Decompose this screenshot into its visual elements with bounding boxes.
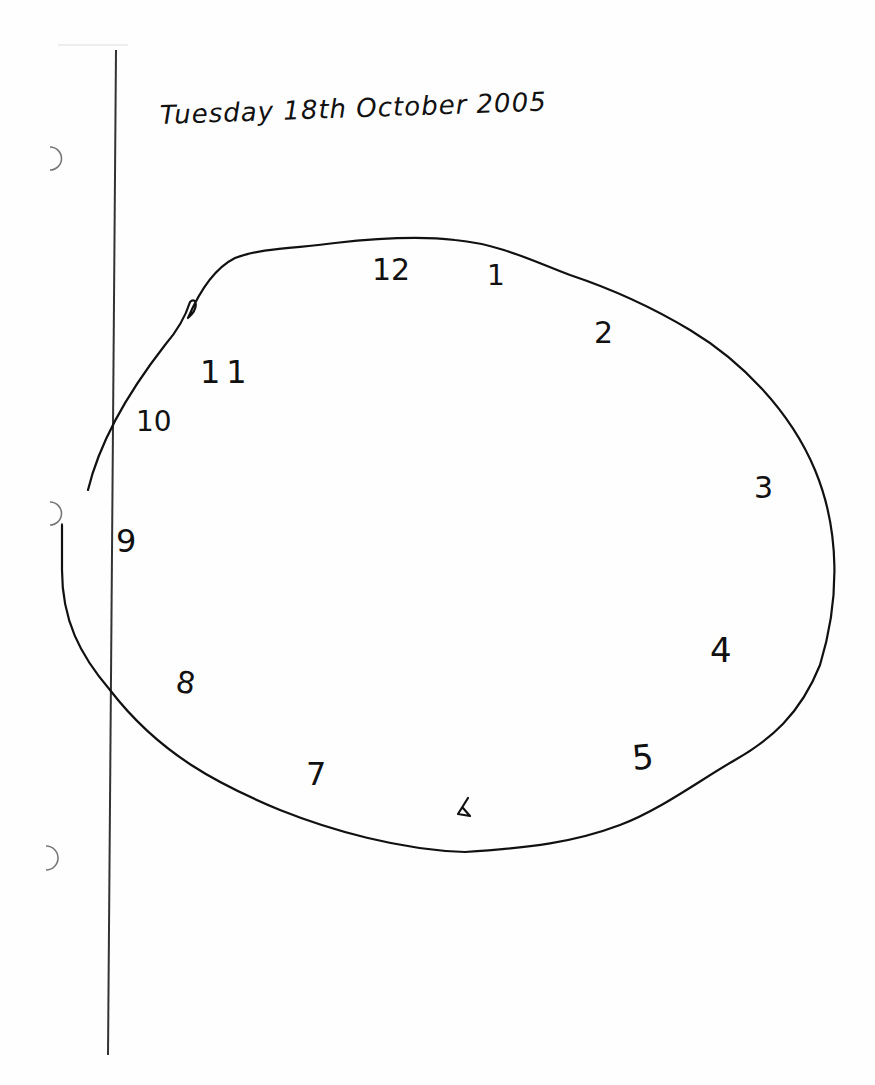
punch-hole-icon <box>50 147 62 170</box>
clock-numeral-5: 5 <box>631 739 656 775</box>
margin-line <box>108 50 116 1055</box>
clock-numeral-12: 12 <box>372 255 410 285</box>
numeral-6-glyph <box>458 798 470 816</box>
clock-numeral-7: 7 <box>306 758 326 790</box>
punch-hole-icon <box>46 846 58 870</box>
clock-numeral-2: 2 <box>594 318 613 348</box>
notebook-page: Tuesday 18th October 2005 12 1 2 3 4 5 6… <box>0 0 875 1085</box>
clock-face-outline <box>62 238 834 852</box>
clock-numeral-11: 11 <box>200 356 253 388</box>
clock-numeral-3: 3 <box>754 473 773 503</box>
punch-hole-icon <box>50 502 62 525</box>
clock-numeral-9: 9 <box>116 525 136 557</box>
clock-numeral-4: 4 <box>710 633 732 667</box>
clock-numeral-1: 1 <box>487 262 505 290</box>
clock-numeral-10: 10 <box>136 408 172 436</box>
